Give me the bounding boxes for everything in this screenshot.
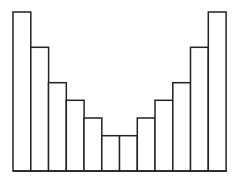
bar-6 (102, 136, 120, 171)
bars-group (13, 12, 226, 171)
bar-11 (191, 47, 209, 171)
bar-3 (49, 83, 67, 171)
bar-1 (13, 12, 31, 171)
bar-5 (84, 118, 102, 171)
bar-8 (137, 118, 155, 171)
bar-10 (173, 83, 191, 171)
bar-7 (120, 136, 138, 171)
u-shaped-bar-chart (0, 0, 237, 179)
bar-2 (31, 47, 49, 171)
bar-4 (66, 100, 84, 171)
bar-9 (155, 100, 173, 171)
bar-12 (208, 12, 226, 171)
